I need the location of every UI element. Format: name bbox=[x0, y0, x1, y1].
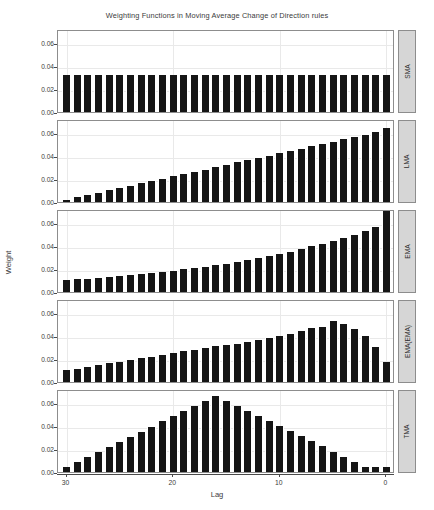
bar-series bbox=[58, 121, 393, 202]
bar bbox=[254, 340, 263, 382]
panel-strip-text: SMA bbox=[403, 64, 410, 78]
bar bbox=[350, 329, 359, 382]
bar bbox=[126, 437, 135, 473]
bar bbox=[254, 416, 263, 472]
bar bbox=[339, 139, 348, 202]
bar bbox=[73, 197, 82, 202]
y-tick-group: 0.000.020.040.06 bbox=[18, 120, 54, 203]
y-tick-group: 0.000.020.040.06 bbox=[18, 210, 54, 293]
bar bbox=[286, 431, 295, 472]
bar bbox=[73, 369, 82, 382]
chart-title: Weighting Functions in Moving Average Ch… bbox=[0, 11, 434, 20]
bar bbox=[147, 75, 156, 112]
plot-area bbox=[57, 30, 394, 113]
plot-area bbox=[57, 300, 394, 383]
panel-strip-text: TMA bbox=[403, 425, 410, 439]
bar bbox=[169, 353, 178, 382]
y-tick-label: 0.04 bbox=[24, 243, 54, 250]
bar bbox=[158, 355, 167, 382]
y-tick-label: 0.06 bbox=[24, 220, 54, 227]
bar bbox=[73, 462, 82, 472]
x-tick-mark bbox=[385, 474, 386, 477]
bar bbox=[169, 75, 178, 112]
bar bbox=[297, 75, 306, 112]
bar bbox=[158, 179, 167, 202]
bar bbox=[115, 276, 124, 292]
bar bbox=[382, 128, 391, 202]
y-tick-label: 0.02 bbox=[24, 356, 54, 363]
bar bbox=[318, 144, 327, 202]
bar bbox=[169, 176, 178, 202]
bar bbox=[243, 160, 252, 202]
bar bbox=[286, 252, 295, 292]
bar bbox=[179, 411, 188, 472]
bar bbox=[190, 75, 199, 112]
bar bbox=[137, 75, 146, 112]
bar bbox=[350, 75, 359, 112]
bar bbox=[83, 367, 92, 382]
bar bbox=[137, 358, 146, 382]
panel-strip-label: EMA bbox=[398, 210, 416, 293]
panel-sma: 0.000.020.040.06SMA bbox=[0, 28, 434, 117]
y-tick-mark bbox=[54, 113, 57, 114]
bar bbox=[126, 186, 135, 202]
bar bbox=[83, 195, 92, 202]
bar bbox=[286, 75, 295, 112]
y-tick-label: 0.02 bbox=[24, 266, 54, 273]
bar bbox=[105, 190, 114, 202]
bar bbox=[62, 75, 71, 112]
bar bbox=[265, 421, 274, 472]
bar bbox=[169, 416, 178, 472]
panel-tma: 0.000.020.040.06TMA bbox=[0, 388, 434, 477]
y-tick-label: 0.06 bbox=[24, 310, 54, 317]
bar bbox=[190, 268, 199, 292]
y-tick-mark bbox=[54, 383, 57, 384]
panel-strip-text: LMA bbox=[404, 155, 411, 169]
bar bbox=[307, 75, 316, 112]
bar bbox=[361, 231, 370, 292]
bar bbox=[115, 188, 124, 202]
bar bbox=[286, 334, 295, 382]
bar bbox=[233, 75, 242, 112]
bar bbox=[179, 75, 188, 112]
bar bbox=[147, 181, 156, 202]
bar bbox=[361, 75, 370, 112]
bar bbox=[265, 338, 274, 382]
bar bbox=[265, 75, 274, 112]
bar bbox=[105, 277, 114, 292]
bar bbox=[62, 280, 71, 292]
y-tick-label: 0.02 bbox=[24, 176, 54, 183]
bar bbox=[297, 331, 306, 382]
bar bbox=[83, 75, 92, 112]
bar-series bbox=[58, 211, 393, 292]
y-tick-label: 0.00 bbox=[24, 199, 54, 206]
bar bbox=[297, 249, 306, 292]
bar bbox=[179, 269, 188, 292]
panel-stack: 0.000.020.040.06SMA0.000.020.040.06LMA0.… bbox=[0, 28, 434, 478]
bar bbox=[243, 411, 252, 472]
bar bbox=[254, 258, 263, 292]
panel-emaema: 0.000.020.040.06EMA(EMA) bbox=[0, 298, 434, 387]
y-tick-group: 0.000.020.040.06 bbox=[18, 300, 54, 383]
y-tick-label: 0.02 bbox=[24, 86, 54, 93]
bar bbox=[318, 244, 327, 292]
bar bbox=[307, 328, 316, 382]
bar bbox=[339, 457, 348, 472]
bar bbox=[201, 170, 210, 203]
bar bbox=[371, 467, 380, 472]
y-tick-label: 0.04 bbox=[24, 333, 54, 340]
bar bbox=[158, 75, 167, 112]
bar bbox=[254, 75, 263, 112]
y-tick-label: 0.00 bbox=[24, 109, 54, 116]
bar bbox=[233, 162, 242, 202]
chart-root: Weighting Functions in Moving Average Ch… bbox=[0, 0, 434, 510]
bar bbox=[201, 348, 210, 382]
bar bbox=[94, 365, 103, 382]
x-tick-label: 20 bbox=[160, 479, 184, 486]
bar bbox=[211, 167, 220, 202]
y-tick-label: 0.06 bbox=[24, 400, 54, 407]
bar bbox=[62, 370, 71, 382]
bar bbox=[361, 336, 370, 382]
bar bbox=[286, 151, 295, 202]
panel-strip-label: LMA bbox=[398, 120, 416, 203]
